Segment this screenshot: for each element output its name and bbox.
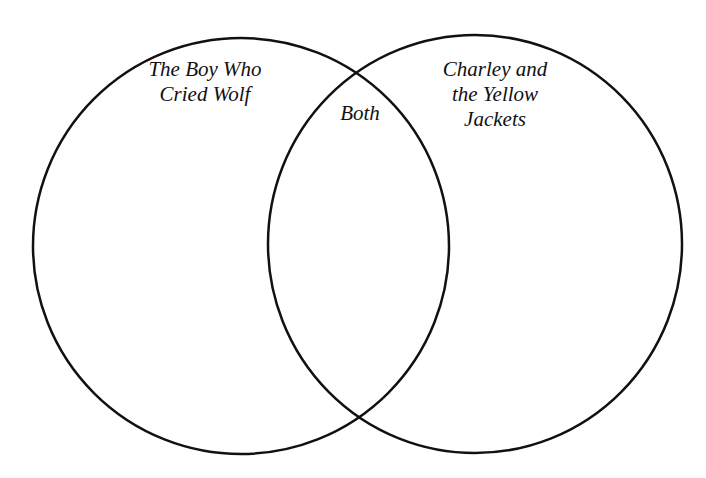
venn-diagram (0, 0, 706, 478)
left-set-label: The Boy Who Cried Wolf (135, 57, 275, 107)
intersection-label: Both (325, 101, 395, 126)
right-set-label: Charley and the Yellow Jackets (430, 57, 560, 132)
